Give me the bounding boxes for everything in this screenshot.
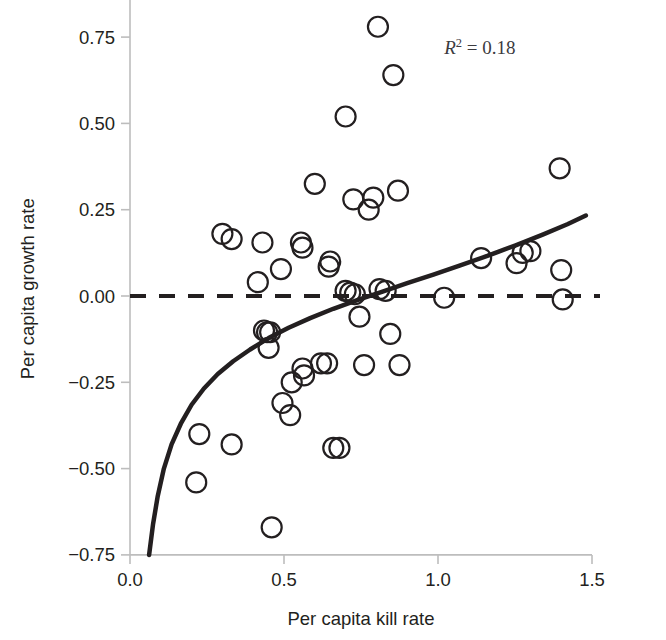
data-point [336, 107, 356, 127]
data-point [383, 65, 403, 85]
data-point [550, 158, 570, 178]
data-point [189, 424, 209, 444]
data-point [186, 472, 206, 492]
data-point [390, 355, 410, 375]
data-point [354, 355, 374, 375]
data-points-group [186, 17, 573, 538]
data-point [305, 174, 325, 194]
y-tick-label-5: 0.50 [79, 113, 115, 134]
y-tick-label-2: −0.25 [68, 372, 115, 393]
data-point [248, 272, 268, 292]
fitted-curve [149, 216, 586, 555]
data-point [388, 181, 408, 201]
data-point [271, 259, 291, 279]
x-tick-label-2: 1.0 [425, 569, 451, 590]
data-point [262, 517, 282, 537]
r-squared-value: = 0.18 [462, 37, 515, 58]
y-tick-label-1: −0.50 [68, 458, 115, 479]
data-point [222, 434, 242, 454]
data-point [349, 307, 369, 327]
data-point [553, 289, 573, 309]
data-point [380, 324, 400, 344]
plot-canvas: −0.75−0.50−0.250.000.250.500.750.00.51.0… [0, 0, 666, 640]
r-squared-annotation: R2 = 0.18 [443, 36, 515, 58]
y-axis-title: Per capita growth rate [17, 198, 38, 379]
data-point [259, 338, 279, 358]
data-point [551, 260, 571, 280]
x-axis-title: Per capita kill rate [287, 608, 434, 629]
data-point [368, 17, 388, 37]
data-point [252, 232, 272, 252]
x-tick-label-0: 0.0 [117, 569, 143, 590]
scatter-plot-figure: −0.75−0.50−0.250.000.250.500.750.00.51.0… [0, 0, 666, 640]
x-tick-label-3: 1.5 [579, 569, 605, 590]
y-tick-label-3: 0.00 [79, 286, 115, 307]
y-tick-label-6: 0.75 [79, 27, 115, 48]
r-squared-symbol: R [443, 37, 456, 58]
data-point [363, 188, 383, 208]
y-tick-label-4: 0.25 [79, 199, 115, 220]
data-point [359, 200, 379, 220]
x-tick-label-1: 0.5 [271, 569, 297, 590]
y-tick-label-0: −0.75 [68, 544, 115, 565]
data-point [282, 372, 302, 392]
